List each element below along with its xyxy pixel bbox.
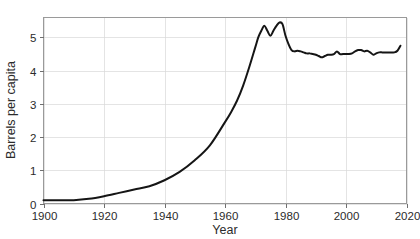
x-tick-marks	[45, 204, 408, 208]
tick-label-x: 2020	[395, 210, 420, 222]
tick-label-x: 1960	[213, 210, 239, 222]
data-series-line	[44, 22, 401, 200]
tick-label-x: 1980	[274, 210, 300, 222]
chart-container: 012345 1900192019401960198020002020 Year…	[0, 0, 420, 239]
tick-label-x: 1900	[32, 210, 58, 222]
tick-label-y: 4	[30, 66, 37, 78]
tick-label-y: 3	[30, 99, 36, 111]
x-gridlines	[45, 18, 408, 204]
x-tick-labels: 1900192019401960198020002020	[32, 210, 420, 222]
x-axis-title: Year	[212, 223, 237, 237]
y-tick-labels: 012345	[30, 32, 37, 211]
line-chart: 012345 1900192019401960198020002020 Year…	[0, 0, 420, 239]
tick-label-y: 1	[30, 165, 36, 177]
plot-frame	[44, 18, 407, 204]
tick-label-y: 2	[30, 132, 36, 144]
y-tick-marks	[40, 38, 44, 205]
tick-label-x: 1940	[153, 210, 179, 222]
tick-label-y: 5	[30, 32, 36, 44]
tick-label-x: 1920	[92, 210, 118, 222]
tick-label-x: 2000	[334, 210, 360, 222]
y-axis-title: Barrels per capita	[4, 61, 18, 159]
